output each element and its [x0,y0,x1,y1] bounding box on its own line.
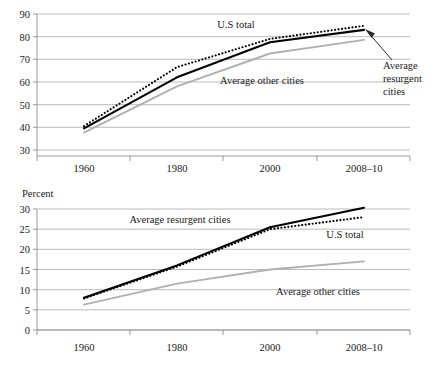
bottom-y-tick-30: 30 [20,204,31,215]
two-panel-line-chart-figure: 90 80 70 60 50 40 30 1960 1980 2000 2008… [0,0,432,369]
bottom-us-total-label: U.S total [326,229,363,240]
bottom-x-tick-2008-10: 2008–10 [346,342,383,353]
top-y-tick-60: 60 [20,77,31,88]
top-series-other-cities-line [84,40,364,133]
top-y-tick-70: 70 [20,54,31,65]
bottom-y-axis-title: Percent [22,188,54,199]
bottom-y-tick-10: 10 [20,285,31,296]
bottom-x-tick-2000: 2000 [260,342,281,353]
bottom-x-tick-1960: 1960 [74,342,95,353]
top-y-tick-80: 80 [20,32,31,43]
bottom-y-tick-25: 25 [20,224,31,235]
top-y-tick-50: 50 [20,100,31,111]
top-x-tickmarks [37,156,410,161]
bottom-gridlines [37,209,410,330]
bottom-y-tickmarks [33,209,37,330]
top-resurgent-annotation-arrow [365,29,392,60]
top-y-tickmarks [33,14,37,150]
top-chart-panel: 90 80 70 60 50 40 30 1960 1980 2000 2008… [0,0,432,178]
bottom-x-tick-1980: 1980 [167,342,188,353]
top-y-tick-30: 30 [20,145,31,156]
top-x-tick-2008-10: 2008–10 [346,163,383,174]
bottom-y-tick-5: 5 [25,305,30,316]
bottom-chart-svg: Percent [0,183,432,369]
top-x-tick-1980: 1980 [167,163,188,174]
bottom-resurgent-label: Average resurgent cities [129,214,230,225]
bottom-other-cities-label: Average other cities [276,286,360,297]
top-resurgent-label-line1: Average [383,60,418,71]
bottom-chart-panel: Percent [0,183,432,369]
bottom-y-tick-0: 0 [25,325,30,336]
top-resurgent-label-line3: cities [383,86,405,97]
top-other-cities-label: Average other cities [220,75,304,86]
top-x-tick-1960: 1960 [74,163,95,174]
top-x-tick-2000: 2000 [260,163,281,174]
bottom-y-tick-15: 15 [20,265,31,276]
top-y-tick-40: 40 [20,122,31,133]
top-chart-svg: 90 80 70 60 50 40 30 1960 1980 2000 2008… [0,0,432,178]
top-resurgent-label-line2: resurgent [383,73,422,84]
top-y-tick-90: 90 [20,9,31,20]
bottom-y-tick-20: 20 [20,244,31,255]
top-us-total-label: U.S total [217,19,254,30]
bottom-x-tickmarks [37,330,410,335]
